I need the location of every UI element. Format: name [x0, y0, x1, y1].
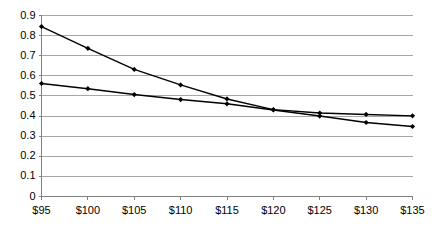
y-axis-tick-label: 0.5: [20, 90, 35, 101]
x-axis-tick-label: $110: [156, 205, 206, 216]
y-axis-tick-label: 0.6: [20, 70, 35, 81]
y-axis-tick-label: 0.9: [20, 10, 35, 21]
y-axis-tick-label: 0.3: [20, 130, 35, 141]
x-axis-tick-label: $95: [17, 205, 67, 216]
y-axis-tick-label: 0.2: [20, 150, 35, 161]
x-axis-tick-label: $105: [109, 205, 159, 216]
x-axis-tick-label: $115: [202, 205, 252, 216]
y-axis-tick-label: 0.7: [20, 50, 35, 61]
x-axis-tick-label: $135: [388, 205, 438, 216]
y-axis-tick-label: 0: [29, 191, 35, 202]
x-axis-tick-label: $125: [295, 205, 345, 216]
chart-plot-area: [0, 0, 442, 232]
x-axis-tick-label: $120: [248, 205, 298, 216]
y-axis-tick-label: 0.1: [20, 170, 35, 181]
y-axis-tick-label: 0.8: [20, 30, 35, 41]
line-chart: 00.10.20.30.40.50.60.70.80.9 $95$100$105…: [0, 0, 442, 232]
x-axis-tick-label: $130: [341, 205, 391, 216]
x-axis-tick-label: $100: [63, 205, 113, 216]
y-axis-tick-label: 0.4: [20, 110, 35, 121]
